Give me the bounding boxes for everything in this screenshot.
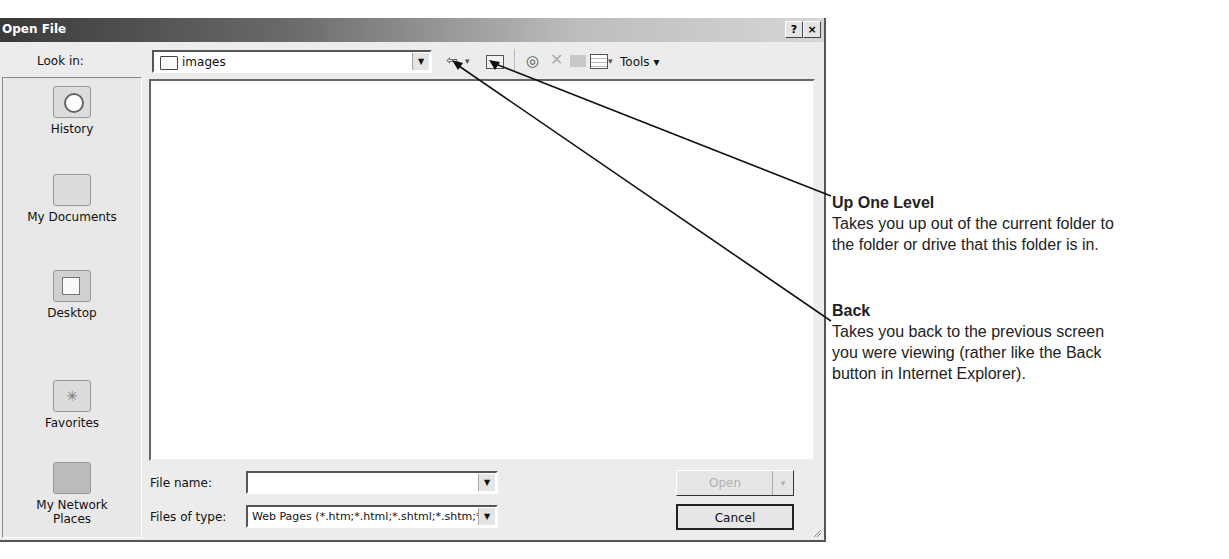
file-name-input[interactable]: ▼ (246, 471, 498, 494)
desktop-icon (53, 270, 91, 302)
chevron-down-icon[interactable]: ▼ (478, 474, 495, 491)
search-web-icon[interactable]: ◎ (526, 52, 539, 70)
views-icon[interactable] (590, 54, 608, 69)
favorites-icon: ✳ (53, 380, 91, 412)
resize-grip-icon[interactable] (812, 528, 822, 538)
delete-icon[interactable]: ✕ (550, 50, 563, 69)
chevron-down-icon[interactable]: ▼ (412, 53, 429, 70)
place-label: History (51, 122, 94, 136)
place-my-network-places[interactable]: My Network Places (3, 462, 141, 526)
place-my-documents[interactable]: My Documents (3, 174, 141, 224)
files-of-type-label: Files of type: (150, 510, 226, 524)
place-label: Desktop (47, 306, 97, 320)
help-button[interactable]: ? (785, 21, 803, 38)
file-list[interactable] (149, 79, 815, 461)
place-label: My Documents (27, 210, 117, 224)
place-desktop[interactable]: Desktop (3, 270, 141, 320)
new-folder-icon[interactable] (570, 55, 586, 67)
title-bar[interactable]: Open File ? × (0, 18, 824, 42)
toolbar-separator (514, 49, 515, 71)
close-button[interactable]: × (803, 21, 821, 38)
views-dropdown-icon[interactable]: ▾ (608, 56, 613, 66)
annotation-back: Back Takes you back to the previous scre… (832, 300, 1104, 384)
back-icon[interactable]: ⇦ (446, 52, 458, 68)
back-dropdown-icon[interactable]: ▾ (465, 56, 470, 66)
place-history[interactable]: History (3, 86, 141, 136)
look-in-dropdown[interactable]: images ▼ (152, 50, 432, 73)
folder-icon (160, 56, 178, 70)
annotation-up-one-level: Up One Level Takes you up out of the cur… (832, 192, 1114, 255)
cancel-button[interactable]: Cancel (676, 504, 794, 530)
dialog-title: Open File (2, 22, 66, 36)
look-in-value: images (182, 55, 226, 69)
files-of-type-dropdown[interactable]: Web Pages (*.htm;*.html;*.shtml;*.shtm;*… (246, 505, 498, 528)
history-icon (53, 86, 91, 118)
open-button[interactable]: Open ▾ (676, 470, 794, 496)
tools-menu[interactable]: Tools ▾ (620, 55, 659, 69)
my-documents-icon (53, 174, 91, 206)
up-folder-icon[interactable] (486, 55, 504, 69)
network-places-icon (53, 462, 91, 494)
places-bar: History My Documents Desktop ✳ Favorites… (2, 77, 142, 538)
place-label: My Network Places (32, 498, 112, 526)
place-label: Favorites (45, 416, 99, 430)
file-name-label: File name: (150, 476, 212, 490)
chevron-down-icon[interactable]: ▼ (478, 508, 495, 525)
open-dropdown-icon[interactable]: ▾ (772, 471, 793, 495)
open-file-dialog: Open File ? × Look in: images ▼ ⇦ ▾ ◎ ✕ … (0, 18, 826, 542)
look-in-label: Look in: (37, 54, 84, 68)
place-favorites[interactable]: ✳ Favorites (3, 380, 141, 430)
